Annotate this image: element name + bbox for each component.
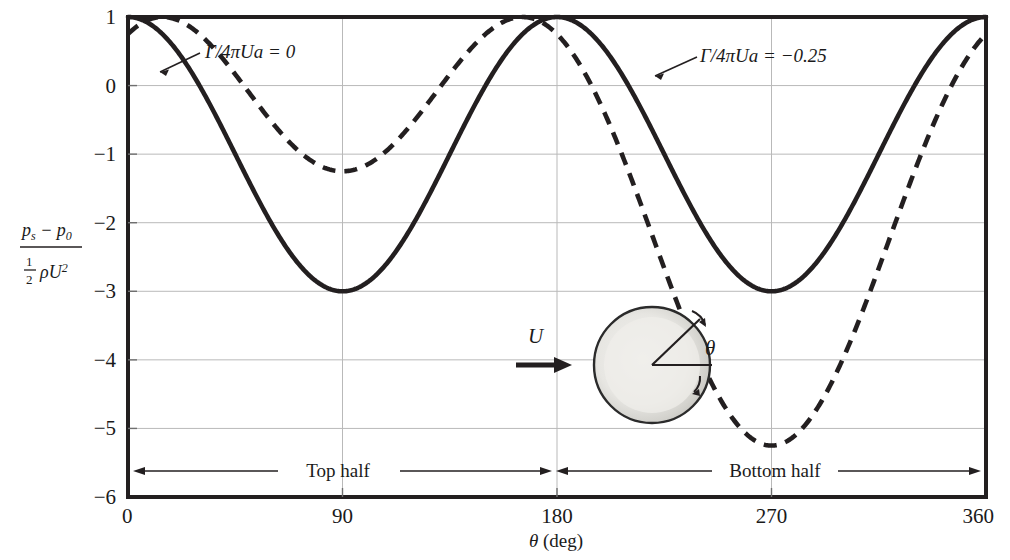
- y-label-half-top: 1: [26, 254, 33, 269]
- x-tick-label: 90: [332, 504, 353, 528]
- x-tick-label: 0: [122, 504, 133, 528]
- y-tick-label: 1: [106, 5, 117, 29]
- flow-velocity-label: U: [528, 324, 545, 348]
- label-bottom-half: Bottom half: [729, 460, 821, 481]
- label-top-half: Top half: [306, 460, 370, 481]
- x-tick-label: 360: [963, 504, 995, 528]
- x-tick-label: 180: [541, 504, 573, 528]
- pressure-coefficient-chart: 10−1−2−3−4−5−6 090180270360 Γ/4πUa = 0 Γ…: [0, 0, 1010, 560]
- annotation-gamma-zero: Γ/4πUa = 0: [204, 41, 296, 62]
- y-label-half-bottom: 2: [26, 272, 33, 287]
- y-tick-label: 0: [106, 74, 117, 98]
- cylinder-theta-label: θ: [705, 336, 715, 360]
- annotation-gamma-minus-quarter: Γ/4πUa = −0.25: [699, 45, 827, 66]
- y-label-numerator: ps − p0: [20, 220, 72, 243]
- y-tick-label: −2: [94, 211, 116, 235]
- y-tick-label: −1: [94, 142, 116, 166]
- x-axis-label: θ (deg): [529, 530, 583, 552]
- y-tick-label: −4: [94, 348, 117, 372]
- y-tick-label: −5: [94, 416, 116, 440]
- x-tick-label: 270: [756, 504, 788, 528]
- y-tick-label: −6: [94, 485, 116, 509]
- chart-background: [0, 0, 1010, 560]
- y-tick-label: −3: [94, 279, 116, 303]
